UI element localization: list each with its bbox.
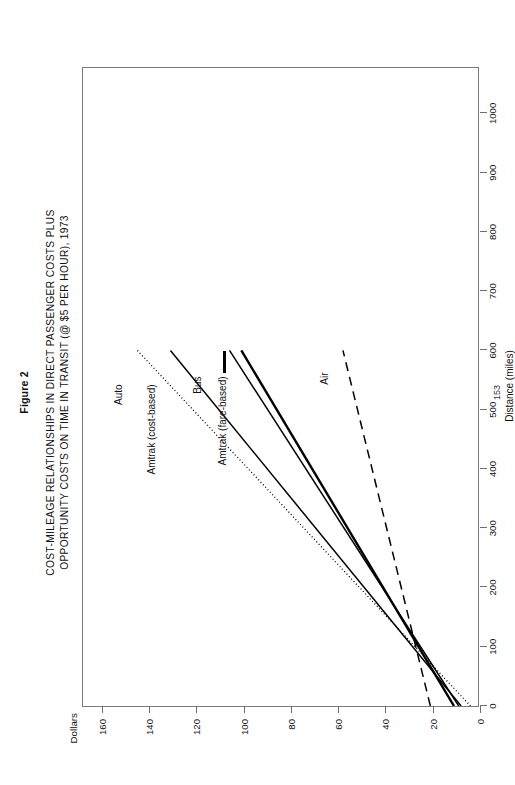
figure-title-line-1: COST-MILEAGE RELATIONSHIPS IN DIRECT PAS… xyxy=(44,0,58,785)
series-label-amtrak-fare-based: Amtrak (fare-based) xyxy=(217,376,228,465)
y-axis-tick-label: 0 xyxy=(475,719,486,724)
x-axis-tick xyxy=(480,290,487,291)
plot-lines xyxy=(83,66,480,706)
x-axis-tick xyxy=(480,705,487,706)
figure-number: Figure 2 xyxy=(18,0,30,785)
y-axis-tick-label: 160 xyxy=(96,719,107,735)
figure-title-line-2: OPPORTUNITY COSTS ON TIME IN TRANSIT (@ … xyxy=(58,0,72,785)
x-axis-tick xyxy=(480,172,487,173)
y-axis-tick xyxy=(149,706,150,713)
x-axis-tick xyxy=(480,468,487,469)
x-axis-tick xyxy=(480,349,487,350)
y-axis-tick-label: 120 xyxy=(191,719,202,735)
y-axis-tick xyxy=(244,706,245,713)
series-line-auto xyxy=(137,350,470,706)
y-axis-tick-label: 60 xyxy=(333,719,344,730)
series-label-amtrak-cost-based: Amtrak (cost-based) xyxy=(146,384,157,474)
x-axis-tick xyxy=(480,112,487,113)
series-label-auto: Auto xyxy=(113,384,124,405)
y-axis-tick xyxy=(338,706,339,713)
series-label-air: Air xyxy=(319,372,330,384)
series-label-bus: Bus xyxy=(192,376,203,393)
x-axis-title: Distance (miles) xyxy=(504,66,515,706)
y-axis-tick xyxy=(196,706,197,713)
y-axis-tick xyxy=(480,706,481,713)
series-line-air xyxy=(343,350,430,706)
series-line-amtrak-cost-based xyxy=(170,350,461,706)
y-axis-tick-label: 100 xyxy=(238,719,249,735)
series-key-swatch-amtrak-fare-based xyxy=(223,351,226,373)
x-axis-tick xyxy=(480,409,487,410)
y-axis-tick-label: 140 xyxy=(144,719,155,735)
y-axis-tick xyxy=(102,706,103,713)
y-axis-tick xyxy=(433,706,434,713)
x-axis-tick xyxy=(480,527,487,528)
y-axis-title: Dollars xyxy=(68,713,79,744)
y-axis-tick-label: 40 xyxy=(380,719,391,730)
y-axis-tick-label: 20 xyxy=(427,719,438,730)
y-axis-tick xyxy=(385,706,386,713)
y-axis-tick xyxy=(291,706,292,713)
x-axis-tick xyxy=(480,646,487,647)
x-axis-tick xyxy=(480,231,487,232)
figure-title: COST-MILEAGE RELATIONSHIPS IN DIRECT PAS… xyxy=(44,0,72,785)
series-line-bus xyxy=(230,350,459,706)
page-number: 153 xyxy=(492,0,502,785)
y-axis-tick-label: 80 xyxy=(285,719,296,730)
series-line-amtrak-fare-based xyxy=(241,350,454,706)
x-axis-tick xyxy=(480,586,487,587)
plot-area: Distance (miles) 01002003004005006007008… xyxy=(82,67,479,707)
